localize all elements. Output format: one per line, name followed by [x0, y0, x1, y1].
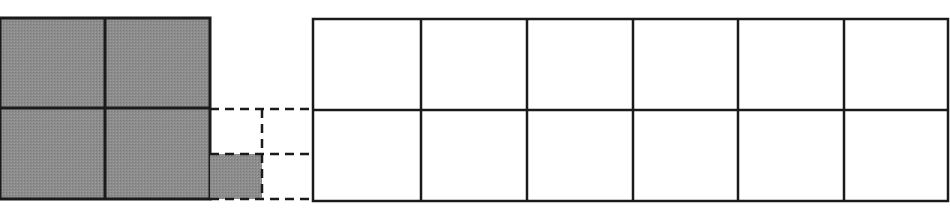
shaded-2x2-grid: [0, 18, 210, 199]
grid-diagram: [0, 0, 950, 220]
empty-2x6-grid: [313, 19, 948, 201]
dashed-extension: [210, 109, 313, 199]
small-shaded-square: [210, 154, 262, 199]
